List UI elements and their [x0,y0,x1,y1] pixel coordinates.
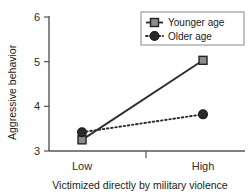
data-point-older-low [78,128,87,137]
y-tick-label-3: 3 [34,145,40,157]
y-tick-label-6: 6 [34,11,40,23]
line-chart: Aggressive behavior 3 4 5 6 Low High Vic… [0,0,251,194]
y-tick-label-5: 5 [34,56,40,68]
series-line-older-age [82,114,203,132]
y-tick-label-4: 4 [34,100,40,112]
chart-container: Aggressive behavior 3 4 5 6 Low High Vic… [0,0,251,194]
legend-marker-older-age [150,32,159,41]
legend-label-older-age: Older age [168,31,212,42]
data-point-older-high [199,110,208,119]
legend-label-younger-age: Younger age [168,17,225,28]
data-point-younger-high [199,56,207,64]
x-category-label-high: High [192,160,215,172]
x-category-label-low: Low [72,160,92,172]
x-axis-title: Victimized directly by military violence [52,179,228,191]
y-axis-title: Aggressive behavior [6,44,18,140]
legend-marker-younger-age [151,19,159,27]
series-line-younger-age [82,60,203,140]
legend: Younger age Older age [141,12,244,45]
